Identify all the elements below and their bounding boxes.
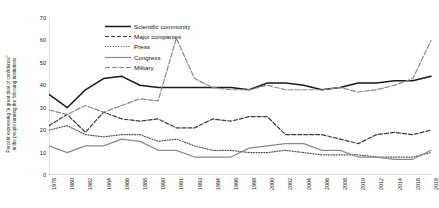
legend-swatch-dashed-icon	[105, 33, 131, 40]
y-tick-label: 70	[40, 15, 46, 21]
legend-label: Scientific community	[134, 23, 190, 30]
x-tick-label: 2018	[433, 178, 439, 190]
x-tick-label: 1996	[233, 178, 239, 190]
legend-label: Press	[134, 43, 150, 50]
legend-item-major-companies: Major companies	[105, 32, 190, 40]
y-tick-label: 20	[40, 127, 46, 133]
legend-item-congress: Congress	[105, 53, 190, 61]
x-tick-label: 2012	[378, 178, 384, 190]
x-tick-label: 2006	[324, 178, 330, 190]
legend-item-scientific-community: Scientific community	[105, 22, 190, 30]
x-tick-label: 1993	[197, 178, 203, 190]
x-tick-label: 2002	[287, 178, 293, 190]
x-tick-label: 1986	[124, 178, 130, 190]
y-tick-label: 40	[40, 82, 46, 88]
x-tick-label: 1984	[106, 178, 112, 190]
x-tick-label: 2014	[397, 178, 403, 190]
x-tick-label: 2000	[269, 178, 275, 190]
y-tick-label: 30	[40, 105, 46, 111]
x-tick-label: 2004	[306, 178, 312, 190]
y-axis-title-line-1: Percent expressing "a great deal of conf…	[6, 56, 12, 153]
x-tick-label: 1982	[87, 178, 93, 190]
series-line-major-companies	[49, 112, 431, 143]
legend-swatch-solid-icon	[105, 23, 131, 30]
y-tick-label: 10	[40, 150, 46, 156]
x-tick-label: 2016	[415, 178, 421, 190]
legend-item-military: Military	[105, 64, 190, 72]
x-tick-label: 1980	[69, 178, 75, 190]
x-tick-label: 1988	[142, 178, 148, 190]
x-tick-label: 1998	[251, 178, 257, 190]
legend-label: Congress	[134, 54, 160, 61]
chart-legend: Scientific communityMajor companiesPress…	[105, 22, 190, 72]
y-axis-title-line-2: in the people running the following inst…	[12, 56, 18, 153]
legend-item-press: Press	[105, 43, 190, 51]
x-tick-label: 1990	[160, 178, 166, 190]
y-tick-label: 60	[40, 37, 46, 43]
x-tick-label: 2008	[342, 178, 348, 190]
legend-label: Military	[134, 64, 154, 71]
y-axis-title: Percent expressing "a great deal of conf…	[0, 0, 24, 208]
legend-swatch-dotted-icon	[105, 43, 131, 50]
series-line-scientific-community	[49, 76, 431, 107]
x-tick-label: 1978	[51, 178, 57, 190]
x-tick-label: 2010	[360, 178, 366, 190]
legend-swatch-dashdot-icon	[105, 64, 131, 71]
x-tick-label: 1994	[215, 178, 221, 190]
y-tick-label: 50	[40, 60, 46, 66]
legend-label: Major companies	[134, 33, 181, 40]
legend-swatch-solid-light-icon	[105, 54, 131, 61]
x-tick-label: 1991	[178, 178, 184, 190]
y-tick-label: 0	[43, 172, 46, 178]
